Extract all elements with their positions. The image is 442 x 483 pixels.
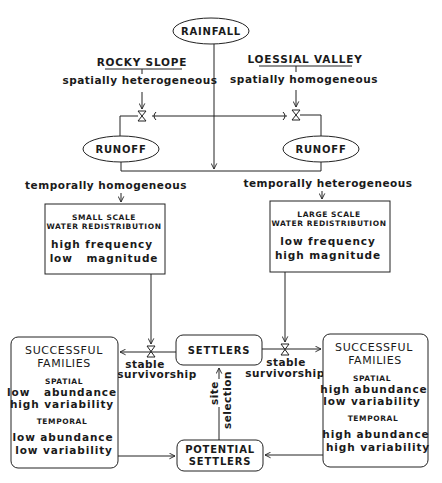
potential-settlers-line2: SETTLERS (189, 456, 251, 467)
survivorship-left-line2: survivorship (117, 368, 196, 380)
families-right-spatial-header: SPATIAL (353, 374, 391, 383)
families-right-spatial-1: high abundance (320, 383, 427, 395)
rocky-slope-property: spatially heterogeneous (62, 74, 217, 86)
loessial-valley-property: spatially homogeneous (230, 73, 378, 85)
rainfall-node: RAINFALL (173, 18, 249, 44)
small-scale-line1: SMALL SCALE (72, 213, 136, 222)
large-scale-line4: high magnitude (275, 249, 381, 261)
large-scale-line2: WATER REDISTRIBUTION (271, 219, 386, 228)
successful-families-right-box: SUCCESSFUL FAMILIES SPATIAL high abundan… (320, 334, 430, 467)
families-right-temporal-1: high abundance (322, 428, 429, 440)
small-scale-line2: WATER REDISTRIBUTION (46, 222, 161, 231)
temporal-left-label: temporally homogeneous (25, 179, 187, 191)
site-selection-line2: selection (221, 371, 233, 429)
families-left-temporal-1: low abundance (13, 431, 114, 443)
large-scale-box: LARGE SCALE WATER REDISTRIBUTION low fre… (270, 201, 390, 272)
rocky-slope-node: ROCKY SLOPE spatially heterogeneous (62, 56, 217, 109)
runoff-left-node: RUNOFF (83, 136, 159, 162)
families-left-temporal-2: low variability (15, 444, 113, 456)
settlers-node: SETTLERS (176, 335, 262, 365)
rocky-slope-title: ROCKY SLOPE (97, 56, 188, 68)
rainfall-label: RAINFALL (181, 26, 241, 37)
small-scale-line3: high frequency (51, 238, 153, 250)
loessial-valley-title: LOESSIAL VALLEY (247, 53, 362, 65)
families-left-spatial-header: SPATIAL (45, 377, 83, 386)
valve-icon-rocky (138, 111, 146, 121)
small-scale-line4: low magnitude (50, 252, 159, 264)
families-right-temporal-header: TEMPORAL (348, 414, 399, 423)
runoff-right-label: RUNOFF (295, 144, 346, 155)
large-scale-line3: low frequency (280, 235, 375, 247)
large-scale-line1: LARGE SCALE (297, 210, 360, 219)
families-left-spatial-2: high variability (10, 398, 114, 410)
survivorship-right-line2: survivorship (245, 367, 324, 379)
families-left-title2: FAMILIES (37, 357, 91, 370)
potential-settlers-node: POTENTIAL SETTLERS (177, 440, 263, 471)
runoff-right-node: RUNOFF (283, 136, 359, 162)
families-right-spatial-2: low variability (323, 395, 421, 407)
rocky-to-runoff-connector (120, 116, 138, 136)
successful-families-left-box: SUCCESSFUL FAMILIES SPATIAL low abundanc… (7, 337, 118, 468)
runoff-left-label: RUNOFF (95, 144, 146, 155)
runoff-combine-connector (121, 162, 321, 171)
families-right-title2: FAMILIES (348, 354, 402, 367)
potential-settlers-line1: POTENTIAL (185, 444, 255, 455)
loessial-to-runoff-connector (300, 115, 321, 136)
temporal-right-label: temporally heterogeneous (243, 177, 412, 189)
families-left-temporal-header: TEMPORAL (37, 417, 88, 426)
runoff-settlers-flow-diagram: RAINFALL ROCKY SLOPE spatially heterogen… (0, 0, 442, 483)
small-scale-box: SMALL SCALE WATER REDISTRIBUTION high fr… (45, 204, 165, 274)
families-right-temporal-2: high variability (326, 441, 430, 453)
families-left-title1: SUCCESSFUL (25, 344, 103, 357)
families-left-spatial-1: low abundance (7, 386, 117, 398)
families-right-title1: SUCCESSFUL (335, 341, 413, 354)
site-selection-line1: site (208, 381, 220, 405)
valve-icon-loessial (292, 110, 300, 120)
settlers-label: SETTLERS (188, 345, 250, 356)
loessial-valley-node: LOESSIAL VALLEY spatially homogeneous (230, 53, 378, 107)
